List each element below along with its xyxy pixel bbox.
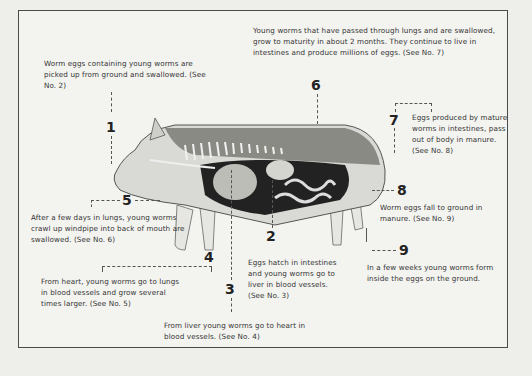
step-9-text: In a few weeks young worms form inside t…	[367, 262, 507, 284]
leader-line	[272, 180, 273, 228]
step-9-number: 9	[399, 243, 409, 257]
step-3-text: From liver young worms go to heart in bl…	[164, 320, 314, 342]
step-3-number: 3	[225, 282, 235, 296]
step-4-text: From heart, young worms go to lungs in b…	[41, 276, 186, 309]
leader-line	[395, 103, 432, 112]
step-1-text: Worm eggs containing young worms are pic…	[44, 58, 214, 91]
arrow-down-line	[366, 228, 367, 242]
leader-line	[102, 266, 212, 272]
leader-line	[317, 94, 318, 124]
step-6-text: Young worms that have passed through lun…	[253, 25, 513, 58]
leader-line	[231, 170, 232, 280]
leader-line	[372, 250, 396, 251]
step-2-number: 2	[266, 229, 276, 243]
leader-line	[372, 190, 394, 191]
leader-line	[111, 92, 112, 112]
step-5-text: After a few days in lungs, young worms c…	[31, 212, 191, 245]
leader-line	[394, 128, 395, 153]
step-6-number: 6	[311, 78, 321, 92]
leader-line	[91, 200, 120, 207]
step-1-number: 1	[106, 120, 116, 134]
step-7-text: Eggs produced by mature worms in intesti…	[412, 112, 514, 156]
step-5-number: 5	[122, 193, 132, 207]
step-7-number: 7	[389, 113, 399, 127]
step-8-text: Worm eggs fall to ground in manure. (See…	[380, 202, 490, 224]
leader-line	[231, 298, 232, 312]
step-4-number: 4	[204, 250, 214, 264]
leader-line	[135, 200, 160, 201]
step-2-text: Eggs hatch in intestines and young worms…	[248, 257, 340, 301]
step-8-number: 8	[397, 183, 407, 197]
leader-line	[111, 136, 112, 164]
